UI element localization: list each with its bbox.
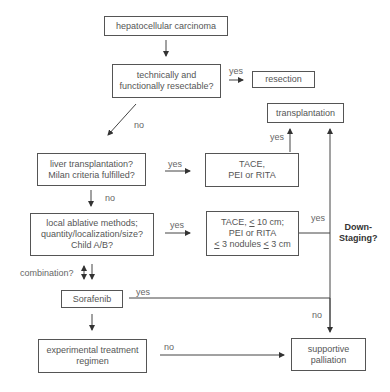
text: 3 cm — [269, 239, 291, 249]
node-text: experimental treatment — [46, 345, 138, 356]
node-sorafenib: Sorafenib — [61, 290, 123, 308]
node-text: palliation — [311, 355, 347, 366]
node-text: Child A/B? — [71, 240, 113, 251]
label-combination: combination? — [20, 268, 74, 278]
node-text: liver transplantation? — [50, 159, 133, 170]
label-yes-tace2: yes — [311, 213, 325, 223]
node-experimental-treatment: experimental treatment regimen — [38, 339, 147, 373]
node-liver-transplantation-question: liver transplantation? Milan criteria fu… — [37, 153, 146, 186]
node-resectable-question: technically and functionally resectable? — [112, 64, 221, 98]
node-text-line3: < 3 nodules < 3 cm — [214, 239, 291, 250]
node-text: functionally resectable? — [119, 81, 213, 92]
label-down-staging-line1: Down- — [339, 222, 378, 233]
node-text: regimen — [76, 356, 109, 367]
label-yes-local: yes — [170, 220, 184, 230]
node-supportive-palliation: supportive palliation — [291, 338, 366, 371]
node-text: technically and — [137, 70, 197, 81]
node-text: TACE, — [239, 159, 265, 170]
text: TACE, — [221, 217, 249, 227]
node-text: supportive — [308, 344, 350, 355]
node-text: Milan criteria fulfilled? — [48, 170, 135, 181]
text: 3 nodules — [219, 239, 263, 249]
node-text: quantity/localization/size? — [41, 229, 143, 240]
label-no-right: no — [312, 310, 322, 320]
node-text-line1: TACE, < 10 cm; — [221, 217, 284, 228]
label-yes-transplantation: yes — [270, 132, 284, 142]
node-text: Sorafenib — [73, 294, 112, 305]
label-no-liver: no — [105, 193, 115, 203]
node-text-line2: PEI or RITA — [229, 228, 276, 239]
label-yes-resection: yes — [229, 66, 243, 76]
label-down-staging: Down- Staging? — [339, 222, 378, 244]
node-tace-size-criteria: TACE, < 10 cm; PEI or RITA < 3 nodules <… — [206, 211, 299, 256]
label-yes-liver: yes — [168, 159, 182, 169]
node-hepatocellular-carcinoma: hepatocellular carcinoma — [104, 16, 228, 36]
node-text: transplantation — [276, 108, 335, 119]
node-resection: resection — [252, 71, 315, 88]
node-text: PEI or RITA — [228, 170, 275, 181]
node-tace-pei-rita: TACE, PEI or RITA — [205, 153, 299, 187]
connector-lines — [0, 0, 390, 392]
node-transplantation: transplantation — [267, 103, 344, 123]
label-no-experimental: no — [164, 342, 174, 352]
node-text: hepatocellular carcinoma — [116, 21, 216, 32]
node-text: resection — [265, 74, 302, 85]
arrow-resectable-no — [108, 104, 136, 135]
label-down-staging-line2: Staging? — [339, 233, 378, 244]
label-yes-sorafenib: yes — [136, 287, 150, 297]
text: 10 cm; — [255, 217, 285, 227]
label-no-resectable: no — [134, 120, 144, 130]
node-local-ablative-question: local ablative methods; quantity/localiz… — [30, 213, 154, 256]
node-text: local ablative methods; — [46, 218, 138, 229]
